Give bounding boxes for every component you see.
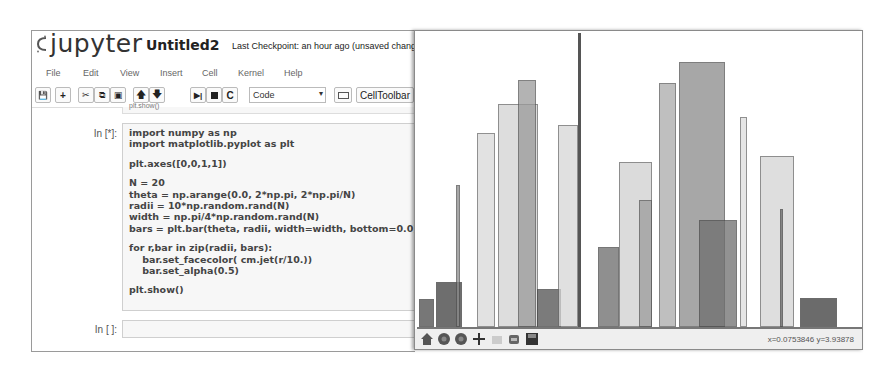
save-figure-button[interactable]	[524, 331, 540, 347]
menu-view[interactable]: View	[120, 68, 139, 78]
chevron-down-icon: ▾	[319, 89, 323, 98]
save-icon: 💾	[38, 91, 48, 100]
code-line: width = np.pi/4*np.random.rand(N)	[129, 211, 415, 222]
plus-icon: +	[60, 90, 66, 101]
arrow-down-icon: 🡇	[152, 87, 162, 104]
code-line: import matplotlib.pyplot as plt	[129, 138, 415, 149]
code-line: import numpy as np	[129, 127, 415, 138]
keyboard-shortcuts-button[interactable]	[334, 87, 352, 103]
chart-bar	[419, 299, 434, 327]
chart-bar	[477, 133, 495, 327]
code-line: bars = plt.bar(theta, radii, width=width…	[129, 223, 415, 234]
pan-icon	[472, 332, 486, 346]
home-button[interactable]	[419, 331, 435, 347]
code-line	[129, 150, 415, 158]
chart-bar	[456, 185, 460, 327]
cell-type-value: Code	[253, 90, 275, 100]
chart-bar	[699, 220, 737, 327]
chart-bar	[780, 209, 783, 327]
code-line: bar.set_alpha(0.5)	[129, 265, 415, 276]
code-line	[129, 169, 415, 177]
menu-edit[interactable]: Edit	[83, 68, 99, 78]
configure-icon	[507, 332, 521, 346]
restart-button[interactable]: C	[222, 87, 238, 103]
move-up-button[interactable]: 🡅	[133, 87, 149, 103]
code-line: plt.show()	[129, 284, 415, 295]
chart-bar	[740, 117, 747, 327]
code-line	[129, 234, 415, 242]
cell-prompt: In [*]:	[37, 128, 117, 139]
plot-toolbar: x=0.0753846 y=3.93878	[415, 329, 862, 349]
forward-button[interactable]	[453, 331, 469, 347]
run-icon: ▶|	[194, 91, 202, 100]
chart-bar	[518, 80, 536, 327]
menu-kernel[interactable]: Kernel	[238, 68, 264, 78]
zoom-button[interactable]	[489, 331, 505, 347]
menubar: File Edit View Insert Cell Kernel Help	[32, 63, 415, 83]
move-down-button[interactable]: 🡇	[149, 87, 165, 103]
cut-icon: ✂	[82, 90, 90, 100]
plot-canvas[interactable]	[417, 33, 862, 329]
back-button[interactable]	[436, 331, 452, 347]
chart-bar	[760, 156, 794, 327]
menu-cell[interactable]: Cell	[202, 68, 218, 78]
chart-bar	[659, 83, 676, 327]
stop-icon	[211, 92, 218, 99]
paste-button[interactable]: ▣	[110, 87, 126, 103]
previous-cell[interactable]: plt.show()	[122, 107, 415, 114]
empty-code-cell[interactable]	[122, 320, 415, 338]
chart-bar	[558, 125, 578, 327]
celltoolbar-label: CellToolbar	[360, 90, 410, 101]
menu-insert[interactable]: Insert	[160, 68, 183, 78]
insert-cell-button[interactable]: +	[55, 87, 71, 103]
previous-cell-text: plt.show()	[129, 102, 159, 109]
code-line: plt.axes([0,0,1,1])	[129, 158, 415, 169]
arrow-up-icon: 🡅	[136, 87, 146, 104]
notebook-title[interactable]: Untitled2	[146, 37, 220, 53]
notebook-window: jupyter Untitled2 Last Checkpoint: an ho…	[31, 30, 415, 352]
home-icon	[420, 332, 434, 346]
chart-bar	[639, 200, 652, 327]
menu-help[interactable]: Help	[284, 68, 303, 78]
jupyter-logo-icon	[36, 35, 48, 53]
chart-vertical-line	[578, 33, 581, 327]
interrupt-button[interactable]	[206, 87, 222, 103]
cut-button[interactable]: ✂	[78, 87, 94, 103]
code-lines: import numpy as npimport matplotlib.pypl…	[129, 127, 415, 296]
code-line: N = 20	[129, 177, 415, 188]
back-icon	[437, 332, 451, 346]
celltoolbar-button[interactable]: CellToolbar	[356, 87, 414, 103]
code-line: for r,bar in zip(radii, bars):	[129, 242, 415, 253]
save-icon	[525, 332, 539, 346]
code-line: radii = 10*np.random.rand(N)	[129, 200, 415, 211]
notebook-toolbar: 💾 + ✂ ⧉ ▣ 🡅 🡇 ▶| C Code ▾	[32, 85, 415, 108]
code-line	[129, 276, 415, 284]
copy-icon: ⧉	[99, 90, 105, 101]
zoom-icon	[490, 332, 504, 346]
keyboard-icon	[338, 92, 349, 99]
jupyter-logo-text[interactable]: jupyter	[50, 30, 142, 58]
run-button[interactable]: ▶|	[190, 87, 206, 103]
code-line: theta = np.arange(0.0, 2*np.pi, 2*np.pi/…	[129, 189, 415, 200]
paste-icon: ▣	[114, 90, 123, 100]
empty-cell-prompt: In [ ]:	[37, 324, 117, 335]
copy-button[interactable]: ⧉	[94, 87, 110, 103]
restart-icon: C	[226, 90, 233, 101]
pan-button[interactable]	[471, 331, 487, 347]
save-button[interactable]: 💾	[35, 87, 51, 103]
code-line: bar.set_facecolor( cm.jet(r/10.))	[129, 254, 415, 265]
menu-file[interactable]: File	[46, 68, 61, 78]
checkpoint-status: Last Checkpoint: an hour ago (unsaved ch…	[232, 41, 415, 51]
forward-icon	[454, 332, 468, 346]
chart-bar	[800, 298, 837, 327]
configure-button[interactable]	[506, 331, 522, 347]
notebook-header: jupyter Untitled2 Last Checkpoint: an ho…	[32, 31, 415, 59]
cell-type-select[interactable]: Code ▾	[249, 87, 326, 103]
plot-window: x=0.0753846 y=3.93878	[414, 30, 863, 350]
chart-bar	[598, 247, 619, 327]
code-cell[interactable]: import numpy as npimport matplotlib.pypl…	[122, 123, 415, 311]
cursor-coordinates: x=0.0753846 y=3.93878	[768, 335, 854, 344]
